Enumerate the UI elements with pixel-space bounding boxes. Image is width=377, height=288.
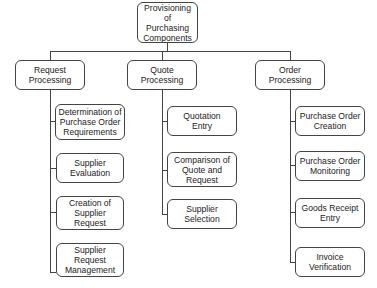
branch-order-processing: Order Processing [255, 60, 325, 90]
node-goods-receipt-entry: Goods Receipt Entry [295, 198, 365, 228]
connector [290, 51, 291, 60]
node-comparison-of-quote-and-request: Comparison of Quote and Request [167, 152, 237, 187]
node-supplier-selection: Supplier Selection [167, 199, 237, 229]
node-purchase-order-creation: Purchase Order Creation [295, 106, 365, 136]
branch-request-processing: Request Processing [15, 60, 85, 90]
branch-quote-processing: Quote Processing [127, 60, 197, 90]
connector [50, 90, 51, 272]
connector [50, 272, 56, 273]
node-creation-of-supplier-request: Creation of Supplier Request [56, 196, 124, 230]
node-purchase-order-monitoring: Purchase Order Monitoring [295, 151, 365, 181]
connector [50, 51, 291, 52]
connector [162, 90, 163, 214]
connector [290, 90, 291, 262]
node-quotation-entry: Quotation Entry [167, 106, 237, 136]
connector [162, 51, 163, 60]
node-determination-of-po-requirements: Determination of Purchase Order Requirem… [55, 104, 125, 140]
node-supplier-request-management: Supplier Request Management [56, 243, 124, 277]
node-supplier-evaluation: Supplier Evaluation [56, 153, 124, 183]
connector [50, 51, 51, 60]
root-node: Provisioning of Purchasing Components [137, 2, 198, 43]
node-invoice-verification: Invoice Verification [295, 247, 365, 277]
connector [167, 43, 168, 51]
hierarchy-diagram: Provisioning of Purchasing Components Re… [0, 0, 377, 288]
